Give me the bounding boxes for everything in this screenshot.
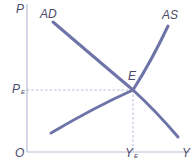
equilibrium-price-label: PE — [12, 83, 25, 95]
ad-as-diagram: P AD AS E PE O YE Y — [0, 0, 196, 165]
output-label-main: Y — [125, 146, 133, 160]
x-axis-label: Y — [182, 147, 190, 159]
as-curve-label: AS — [162, 9, 178, 21]
y-axis-label: P — [16, 3, 24, 15]
as-curve — [51, 26, 168, 133]
equilibrium-label: E — [128, 70, 136, 82]
price-label-subscript: E — [21, 89, 25, 95]
output-label-subscript: E — [134, 153, 138, 159]
diagram-canvas — [0, 0, 196, 165]
price-label-main: P — [12, 82, 20, 96]
equilibrium-output-label: YE — [125, 147, 138, 159]
origin-label: O — [15, 147, 24, 159]
ad-curve-label: AD — [40, 8, 57, 20]
